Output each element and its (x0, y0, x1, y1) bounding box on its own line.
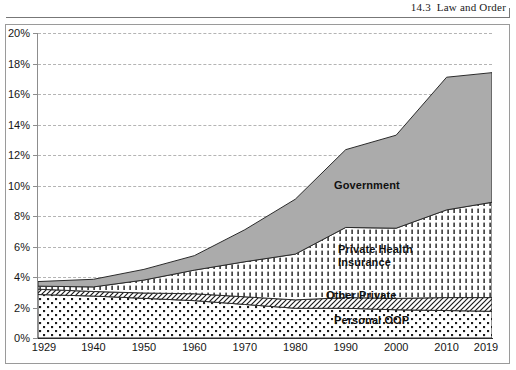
y-axis-label: 20% (8, 27, 30, 39)
x-axis-label: 2019 (474, 341, 498, 353)
x-axis-label: 1990 (333, 341, 357, 353)
x-axis-label: 1960 (182, 341, 206, 353)
x-axis-label: 2000 (384, 341, 408, 353)
x-axis-label: 1950 (132, 341, 156, 353)
x-axis-line (37, 338, 493, 339)
y-axis-label: 0% (14, 332, 30, 344)
series-label-government: Government (334, 179, 400, 192)
y-axis-label: 18% (8, 58, 30, 70)
series-label-other-private: Other Private (326, 289, 396, 302)
x-axis-label: 1940 (81, 341, 105, 353)
x-axis-label: 2010 (434, 341, 458, 353)
x-axis-label: 1929 (32, 341, 56, 353)
y-axis-label: 12% (8, 149, 30, 161)
plot-area: 0%2%4%6%8%10%12%14%16%18%20% 19291940195… (38, 33, 492, 338)
x-axis-label: 1970 (233, 341, 257, 353)
y-axis-label: 6% (14, 241, 30, 253)
y-axis-label: 14% (8, 119, 30, 131)
figure-stacked-area-chart: 0%2%4%6%8%10%12%14%16%18%20% 19291940195… (0, 20, 516, 370)
y-axis-label: 10% (8, 180, 30, 192)
y-axis-label: 4% (14, 271, 30, 283)
stacked-area-series (38, 33, 492, 338)
series-label-private-health-insurance: Private Health Insurance (338, 243, 413, 269)
x-axis-label: 1980 (283, 341, 307, 353)
y-axis-label: 8% (14, 210, 30, 222)
y-axis-tick (33, 338, 38, 339)
series-label-personal-oop: Personal OOP (334, 314, 409, 327)
y-axis-label: 16% (8, 88, 30, 100)
running-head-rule (6, 17, 510, 18)
running-head-text: 14.3 Law and Order (411, 1, 506, 13)
y-axis-label: 2% (14, 302, 30, 314)
running-head: 14.3 Law and Order (0, 0, 516, 20)
